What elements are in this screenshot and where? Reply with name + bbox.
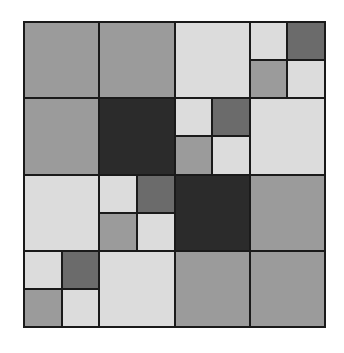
subcell-r2-c1-3 bbox=[138, 214, 174, 250]
subcell-r1-c2-2 bbox=[176, 137, 212, 173]
subcell-r0-c3-2 bbox=[251, 61, 287, 97]
cell-r3-c3 bbox=[251, 252, 324, 326]
subcell-r3-c0-2 bbox=[25, 290, 61, 326]
subcell-r2-c1-1 bbox=[138, 176, 174, 212]
subcell-r3-c0-3 bbox=[63, 290, 99, 326]
cell-r3-c1 bbox=[100, 252, 173, 326]
cell-r2-c0 bbox=[25, 176, 98, 250]
subdivided-cell-r1-c2 bbox=[176, 99, 249, 173]
subcell-r0-c3-1 bbox=[288, 23, 324, 59]
cell-r0-c2 bbox=[176, 23, 249, 97]
cell-r1-c3 bbox=[251, 99, 324, 173]
subcell-r3-c0-1 bbox=[63, 252, 99, 288]
cell-r0-c0 bbox=[25, 23, 98, 97]
cell-r2-c2 bbox=[176, 176, 249, 250]
subcell-r2-c1-0 bbox=[100, 176, 136, 212]
subcell-r3-c0-0 bbox=[25, 252, 61, 288]
subcell-r2-c1-2 bbox=[100, 214, 136, 250]
subdivided-cell-r2-c1 bbox=[100, 176, 173, 250]
subcell-r0-c3-3 bbox=[288, 61, 324, 97]
cell-r3-c2 bbox=[176, 252, 249, 326]
cell-r1-c1 bbox=[100, 99, 173, 173]
subcell-r1-c2-1 bbox=[213, 99, 249, 135]
cell-r2-c3 bbox=[251, 176, 324, 250]
cell-r0-c1 bbox=[100, 23, 173, 97]
subcell-r1-c2-0 bbox=[176, 99, 212, 135]
cell-r1-c0 bbox=[25, 99, 98, 173]
subcell-r1-c2-3 bbox=[213, 137, 249, 173]
quadtree-grid bbox=[23, 21, 326, 328]
subdivided-cell-r3-c0 bbox=[25, 252, 98, 326]
subcell-r0-c3-0 bbox=[251, 23, 287, 59]
subdivided-cell-r0-c3 bbox=[251, 23, 324, 97]
